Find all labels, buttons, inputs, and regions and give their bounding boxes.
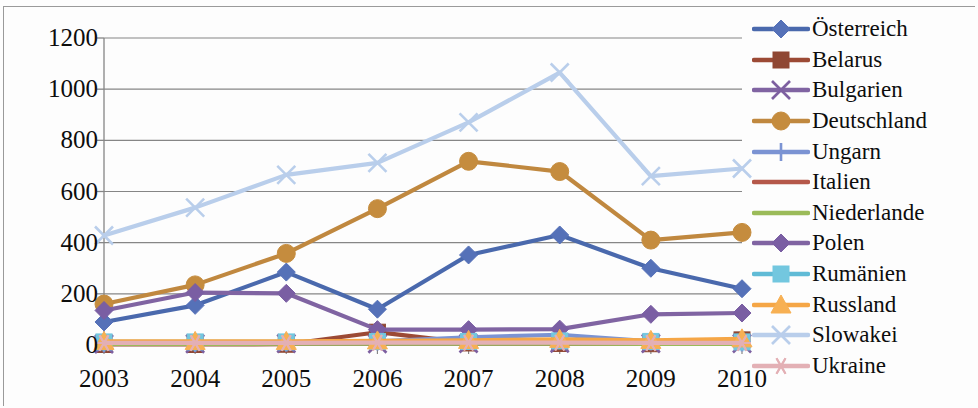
legend-label: Österreich xyxy=(810,16,908,42)
square-marker-icon xyxy=(752,47,810,73)
legend-item[interactable]: Bulgarien xyxy=(752,75,978,106)
chart-legend: ÖsterreichBelarusBulgarienDeutschlandUng… xyxy=(752,14,978,402)
data-point-circle xyxy=(772,112,790,130)
legend-key-svg xyxy=(752,139,810,165)
data-point-diamond xyxy=(772,234,790,252)
x-axis-label: 2004 xyxy=(150,365,240,393)
diamond-marker-icon xyxy=(752,16,810,42)
legend-label: Slowakei xyxy=(810,322,898,348)
cross-marker-icon xyxy=(752,77,810,103)
legend-item[interactable]: Russland xyxy=(752,289,978,320)
data-point-square xyxy=(773,52,789,68)
legend-label: Russland xyxy=(810,292,896,318)
legend-item[interactable]: Ungarn xyxy=(752,136,978,167)
legend-key-svg xyxy=(752,230,810,256)
plus-marker-icon xyxy=(752,139,810,165)
data-point-diamond xyxy=(772,20,790,38)
legend-label: Italien xyxy=(810,169,871,195)
x-axis-label: 2003 xyxy=(59,365,149,393)
legend-key-svg xyxy=(752,292,810,318)
legend-key-svg xyxy=(752,77,810,103)
legend-item[interactable]: Österreich xyxy=(752,14,978,45)
legend-item[interactable]: Deutschland xyxy=(752,106,978,137)
legend-item[interactable]: Rumänien xyxy=(752,259,978,290)
legend-item[interactable]: Belarus xyxy=(752,45,978,76)
data-point-asterisk xyxy=(772,358,790,374)
legend-label: Deutschland xyxy=(810,108,927,134)
legend-key-svg xyxy=(752,108,810,134)
cross-marker-icon xyxy=(752,322,810,348)
x-axis-label: 2008 xyxy=(515,365,605,393)
legend-label: Ukraine xyxy=(810,353,886,379)
legend-key-svg xyxy=(752,47,810,73)
legend-key-svg xyxy=(752,322,810,348)
asterisk-marker-icon xyxy=(752,353,810,379)
legend-label: Rumänien xyxy=(810,261,907,287)
legend-key-svg xyxy=(752,200,810,226)
diamond-marker-icon xyxy=(752,230,810,256)
triangle-marker-icon xyxy=(752,292,810,318)
circle-marker-icon xyxy=(752,108,810,134)
legend-item[interactable]: Italien xyxy=(752,167,978,198)
line-chart: 120010008006004002000 200320042005200620… xyxy=(0,0,760,408)
legend-key-svg xyxy=(752,169,810,195)
line-marker-icon xyxy=(752,200,810,226)
x-axis-label: 2007 xyxy=(424,365,514,393)
x-axis-label: 2006 xyxy=(332,365,422,393)
legend-label: Ungarn xyxy=(810,139,881,165)
legend-label: Niederlande xyxy=(810,200,924,226)
x-axis-label: 2005 xyxy=(241,365,331,393)
x-axis-label: 2009 xyxy=(606,365,696,393)
legend-item[interactable]: Ukraine xyxy=(752,351,978,382)
chart-page: 120010008006004002000 200320042005200620… xyxy=(0,0,978,408)
legend-label: Belarus xyxy=(810,47,882,73)
legend-key-svg xyxy=(752,16,810,42)
legend-label: Bulgarien xyxy=(810,77,903,103)
data-point-square xyxy=(773,266,789,282)
legend-item[interactable]: Niederlande xyxy=(752,198,978,229)
data-point-plus xyxy=(772,143,790,161)
legend-label: Polen xyxy=(810,230,864,256)
x-axis-tick-labels: 20032004200520062007200820092010 xyxy=(0,0,760,408)
legend-key-svg xyxy=(752,353,810,379)
legend-item[interactable]: Polen xyxy=(752,228,978,259)
square-marker-icon xyxy=(752,261,810,287)
legend-item[interactable]: Slowakei xyxy=(752,320,978,351)
line-marker-icon xyxy=(752,169,810,195)
legend-key-svg xyxy=(752,261,810,287)
